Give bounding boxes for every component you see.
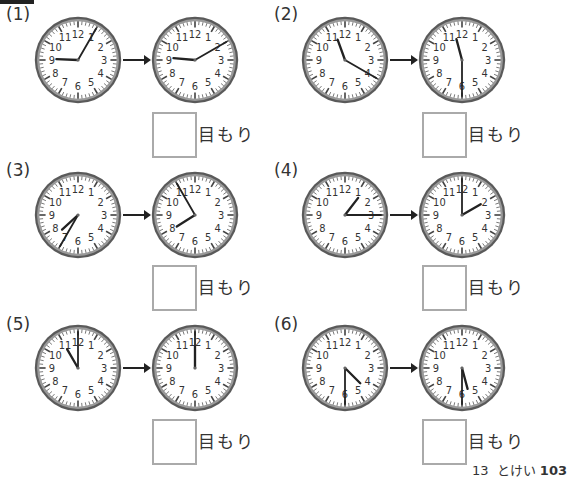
svg-text:1: 1 bbox=[355, 340, 361, 351]
clock-face-icon: 121234567891011 bbox=[150, 15, 240, 105]
clock-face-icon: 121234567891011 bbox=[417, 170, 507, 260]
arrow-icon bbox=[123, 214, 149, 216]
problem-3: (3) 121234567891011 121234567891011 目もり bbox=[0, 156, 288, 311]
svg-text:6: 6 bbox=[75, 389, 81, 400]
svg-text:4: 4 bbox=[97, 68, 103, 79]
svg-text:2: 2 bbox=[97, 197, 103, 208]
problem-number: (5) bbox=[6, 314, 30, 334]
svg-text:7: 7 bbox=[329, 385, 335, 396]
svg-text:8: 8 bbox=[319, 376, 325, 387]
svg-text:8: 8 bbox=[319, 223, 325, 234]
svg-text:5: 5 bbox=[355, 385, 361, 396]
problem-number: (6) bbox=[274, 314, 298, 334]
svg-text:9: 9 bbox=[166, 55, 172, 66]
arrow-icon bbox=[123, 367, 149, 369]
problem-number: (1) bbox=[6, 4, 30, 24]
unit-label: 目もり bbox=[468, 428, 525, 453]
svg-text:4: 4 bbox=[214, 68, 220, 79]
problem-6: (6) 121234567891011 121234567891011 目もり bbox=[268, 310, 556, 465]
svg-text:8: 8 bbox=[169, 223, 175, 234]
svg-text:5: 5 bbox=[472, 77, 478, 88]
svg-text:10: 10 bbox=[49, 350, 62, 361]
svg-text:1: 1 bbox=[205, 32, 211, 43]
svg-text:5: 5 bbox=[355, 77, 361, 88]
svg-text:7: 7 bbox=[62, 77, 68, 88]
chapter-number: 13 bbox=[472, 463, 489, 478]
answer-box[interactable] bbox=[422, 265, 467, 311]
svg-text:6: 6 bbox=[75, 236, 81, 247]
svg-text:6: 6 bbox=[75, 81, 81, 92]
page-footer: 13 とけい 103 bbox=[472, 460, 567, 479]
svg-text:3: 3 bbox=[485, 55, 491, 66]
svg-text:6: 6 bbox=[192, 81, 198, 92]
svg-text:11: 11 bbox=[326, 187, 339, 198]
svg-text:2: 2 bbox=[97, 350, 103, 361]
svg-text:12: 12 bbox=[72, 29, 85, 40]
svg-text:12: 12 bbox=[456, 337, 469, 348]
svg-text:7: 7 bbox=[179, 77, 185, 88]
svg-text:8: 8 bbox=[436, 376, 442, 387]
problem-1: (1) 121234567891011 121234567891011 目もり bbox=[0, 0, 288, 155]
problem-5: (5) 121234567891011 121234567891011 目もり bbox=[0, 310, 288, 465]
svg-text:1: 1 bbox=[472, 340, 478, 351]
svg-text:10: 10 bbox=[433, 350, 446, 361]
answer-box[interactable] bbox=[422, 419, 467, 465]
svg-text:12: 12 bbox=[339, 184, 352, 195]
svg-text:9: 9 bbox=[166, 363, 172, 374]
svg-text:9: 9 bbox=[433, 363, 439, 374]
svg-text:4: 4 bbox=[481, 68, 487, 79]
svg-text:2: 2 bbox=[214, 197, 220, 208]
clock-face-icon: 121234567891011 bbox=[150, 170, 240, 260]
svg-text:11: 11 bbox=[326, 32, 339, 43]
svg-text:5: 5 bbox=[205, 385, 211, 396]
svg-text:9: 9 bbox=[49, 210, 55, 221]
svg-text:5: 5 bbox=[205, 232, 211, 243]
svg-text:8: 8 bbox=[52, 223, 58, 234]
svg-text:11: 11 bbox=[59, 32, 72, 43]
answer-box[interactable] bbox=[152, 112, 197, 158]
svg-text:10: 10 bbox=[316, 350, 329, 361]
svg-text:12: 12 bbox=[456, 29, 469, 40]
svg-text:8: 8 bbox=[52, 68, 58, 79]
svg-text:7: 7 bbox=[446, 77, 452, 88]
answer-box[interactable] bbox=[152, 419, 197, 465]
clock-start: 121234567891011 bbox=[33, 15, 123, 105]
clock-face-icon: 121234567891011 bbox=[417, 323, 507, 413]
svg-text:11: 11 bbox=[59, 187, 72, 198]
page-number: 103 bbox=[540, 463, 567, 478]
clock-end: 121234567891011 bbox=[150, 323, 240, 413]
svg-text:5: 5 bbox=[355, 232, 361, 243]
svg-text:8: 8 bbox=[169, 376, 175, 387]
svg-text:11: 11 bbox=[176, 340, 189, 351]
svg-text:8: 8 bbox=[169, 68, 175, 79]
svg-text:1: 1 bbox=[88, 340, 94, 351]
svg-text:12: 12 bbox=[189, 184, 202, 195]
clock-start: 121234567891011 bbox=[300, 323, 390, 413]
clock-face-icon: 121234567891011 bbox=[33, 323, 123, 413]
answer-box[interactable] bbox=[152, 265, 197, 311]
svg-text:10: 10 bbox=[433, 197, 446, 208]
svg-text:7: 7 bbox=[329, 232, 335, 243]
svg-text:3: 3 bbox=[218, 55, 224, 66]
svg-text:7: 7 bbox=[329, 77, 335, 88]
svg-text:4: 4 bbox=[214, 376, 220, 387]
svg-text:6: 6 bbox=[192, 389, 198, 400]
clock-face-icon: 121234567891011 bbox=[417, 15, 507, 105]
svg-text:6: 6 bbox=[459, 236, 465, 247]
svg-text:10: 10 bbox=[49, 197, 62, 208]
answer-box[interactable] bbox=[422, 112, 467, 158]
svg-text:2: 2 bbox=[214, 350, 220, 361]
svg-text:12: 12 bbox=[339, 337, 352, 348]
svg-text:4: 4 bbox=[364, 376, 370, 387]
svg-text:5: 5 bbox=[472, 232, 478, 243]
svg-text:3: 3 bbox=[218, 210, 224, 221]
svg-text:11: 11 bbox=[443, 187, 456, 198]
svg-text:4: 4 bbox=[481, 376, 487, 387]
problem-number: (2) bbox=[274, 4, 298, 24]
svg-text:7: 7 bbox=[62, 385, 68, 396]
svg-text:5: 5 bbox=[472, 385, 478, 396]
unit-label: 目もり bbox=[198, 274, 255, 299]
svg-text:9: 9 bbox=[316, 210, 322, 221]
svg-text:2: 2 bbox=[97, 42, 103, 53]
svg-text:4: 4 bbox=[364, 223, 370, 234]
